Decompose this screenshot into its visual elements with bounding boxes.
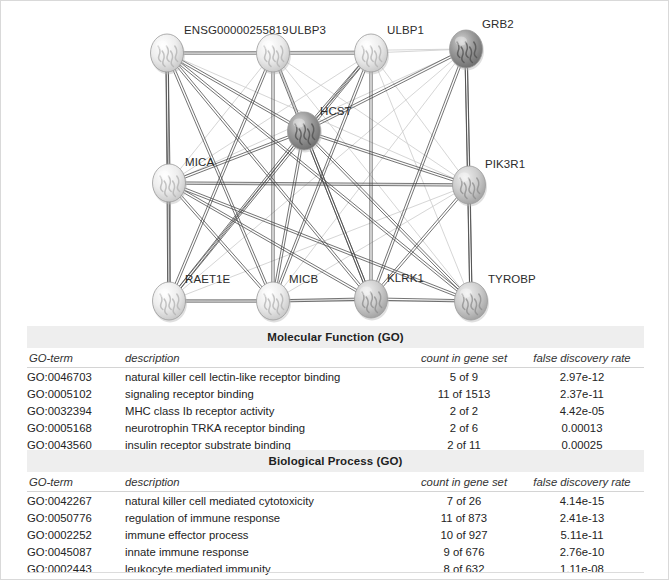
cell-count-in-gene-set: 10 of 927 — [408, 526, 520, 543]
col-go-term: GO-term — [27, 348, 125, 368]
network-edge[interactable] — [272, 53, 274, 301]
network-node-ulbp1[interactable] — [355, 34, 390, 75]
cell-false-discovery-rate: 4.14e-15 — [520, 492, 644, 510]
bottom-divider — [27, 572, 644, 573]
cell-description: natural killer cell lectin-like receptor… — [125, 368, 408, 386]
string-result-page: ENSG00000255819ULBP3ULBP1GRB2HCSTMICAPIK… — [0, 0, 669, 580]
node-label-mica: MICA — [185, 156, 214, 168]
node-label-micb: MICB — [289, 273, 318, 285]
col-false-discovery-rate: false discovery rate — [520, 348, 644, 368]
network-node-micb[interactable] — [257, 282, 292, 323]
go-table-molecular-function: Molecular Function (GO) GO-term descript… — [27, 326, 644, 454]
cell-go-term[interactable]: GO:0002252 — [27, 526, 125, 543]
cell-false-discovery-rate: 0.00013 — [520, 420, 644, 437]
network-node-mica[interactable] — [153, 164, 188, 205]
cell-go-term[interactable]: GO:0002443 — [27, 561, 125, 578]
cell-count-in-gene-set: 11 of 1513 — [408, 385, 520, 402]
cell-count-in-gene-set: 7 of 26 — [408, 492, 520, 510]
table-row[interactable]: GO:0032394MHC class Ib receptor activity… — [27, 402, 644, 419]
cell-count-in-gene-set: 8 of 632 — [408, 561, 520, 578]
network-edge[interactable] — [169, 49, 466, 301]
node-label-ulbp1: ULBP1 — [387, 24, 424, 36]
cell-description: neurotrophin TRKA receptor binding — [125, 420, 408, 437]
col-count-in-gene-set: count in gene set — [408, 472, 520, 492]
table-row[interactable]: GO:0002443leukocyte mediated immunity8 o… — [27, 561, 644, 578]
node-label-ulbp3: ULBP3 — [289, 24, 326, 36]
table-row[interactable]: GO:0002252immune effector process10 of 9… — [27, 526, 644, 543]
cell-false-discovery-rate: 5.11e-11 — [520, 526, 644, 543]
network-edge[interactable] — [272, 53, 372, 302]
cell-go-term[interactable]: GO:0042267 — [27, 492, 125, 510]
table-row[interactable]: GO:0045087innate immune response9 of 676… — [27, 544, 644, 561]
network-node-grb2[interactable] — [450, 30, 485, 71]
table-title: Molecular Function (GO) — [27, 326, 644, 348]
network-canvas[interactable] — [1, 1, 668, 323]
network-node-ensg00000255819[interactable] — [151, 34, 186, 75]
col-count-in-gene-set: count in gene set — [408, 348, 520, 368]
cell-go-term[interactable]: GO:0032394 — [27, 402, 125, 419]
node-label-grb2: GRB2 — [482, 18, 514, 30]
col-false-discovery-rate: false discovery rate — [520, 472, 644, 492]
table-header-row: GO-term description count in gene set fa… — [27, 472, 644, 492]
col-go-term: GO-term — [27, 472, 125, 492]
network-node-pik3r1[interactable] — [453, 166, 488, 207]
cell-count-in-gene-set: 9 of 676 — [408, 544, 520, 561]
go-table-biological-process: Biological Process (GO) GO-term descript… — [27, 450, 644, 578]
network-node-ulbp3[interactable] — [257, 34, 292, 75]
cell-go-term[interactable]: GO:0050776 — [27, 509, 125, 526]
cell-go-term[interactable]: GO:0046703 — [27, 368, 125, 386]
cell-count-in-gene-set: 11 of 873 — [408, 509, 520, 526]
cell-description: immune effector process — [125, 526, 408, 543]
table-row[interactable]: GO:0050776regulation of immune response1… — [27, 509, 644, 526]
node-label-klrk1: KLRK1 — [387, 272, 424, 284]
table-title: Biological Process (GO) — [27, 450, 644, 472]
go-table: GO-term description count in gene set fa… — [27, 472, 644, 578]
table-header-row: GO-term description count in gene set fa… — [27, 348, 644, 368]
col-description: description — [125, 348, 408, 368]
table-row[interactable]: GO:0042267natural killer cell mediated c… — [27, 492, 644, 510]
cell-description: innate immune response — [125, 544, 408, 561]
cell-description: leukocyte mediated immunity — [125, 561, 408, 578]
cell-go-term[interactable]: GO:0005102 — [27, 385, 125, 402]
cell-go-term[interactable]: GO:0005168 — [27, 420, 125, 437]
table-body: GO:0042267natural killer cell mediated c… — [27, 492, 644, 578]
network-node-raet1e[interactable] — [153, 282, 188, 323]
cell-false-discovery-rate: 1.11e-08 — [520, 561, 644, 578]
go-table: GO-term description count in gene set fa… — [27, 348, 644, 454]
node-label-pik3r1: PIK3R1 — [485, 158, 525, 170]
cell-count-in-gene-set: 5 of 9 — [408, 368, 520, 386]
node-label-raet1e: RAET1E — [185, 273, 230, 285]
node-label-hcst: HCST — [320, 105, 352, 117]
table-row[interactable]: GO:0005168neurotrophin TRKA receptor bin… — [27, 420, 644, 437]
node-label-ensg00000255819: ENSG00000255819 — [184, 24, 288, 36]
cell-false-discovery-rate: 2.37e-11 — [520, 385, 644, 402]
table-row[interactable]: GO:0046703natural killer cell lectin-lik… — [27, 368, 644, 386]
network-node-tyrobp[interactable] — [455, 282, 490, 323]
cell-description: signaling receptor binding — [125, 385, 408, 402]
cell-count-in-gene-set: 2 of 2 — [408, 402, 520, 419]
cell-false-discovery-rate: 2.76e-10 — [520, 544, 644, 561]
cell-description: MHC class Ib receptor activity — [125, 402, 408, 419]
cell-false-discovery-rate: 4.42e-05 — [520, 402, 644, 419]
cell-go-term[interactable]: GO:0045087 — [27, 544, 125, 561]
cell-false-discovery-rate: 2.41e-13 — [520, 509, 644, 526]
network-edge[interactable] — [371, 53, 469, 185]
cell-count-in-gene-set: 2 of 6 — [408, 420, 520, 437]
protein-network-panel[interactable]: ENSG00000255819ULBP3ULBP1GRB2HCSTMICAPIK… — [1, 1, 668, 323]
table-row[interactable]: GO:0005102signaling receptor binding11 o… — [27, 385, 644, 402]
table-body: GO:0046703natural killer cell lectin-lik… — [27, 368, 644, 454]
cell-false-discovery-rate: 2.97e-12 — [520, 368, 644, 386]
cell-description: regulation of immune response — [125, 509, 408, 526]
col-description: description — [125, 472, 408, 492]
cell-description: natural killer cell mediated cytotoxicit… — [125, 492, 408, 510]
node-label-tyrobp: TYROBP — [488, 273, 536, 285]
